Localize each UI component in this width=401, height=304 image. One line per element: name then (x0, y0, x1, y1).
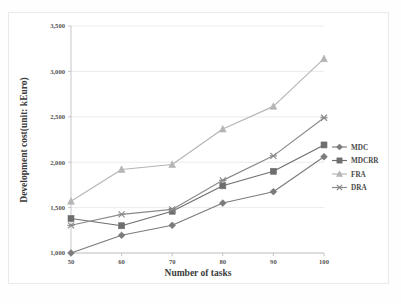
data-point-marker (118, 232, 125, 239)
data-point-marker (337, 158, 342, 163)
line-chart: 1,0001,5002,0002,5003,0003,500 506070809… (14, 14, 383, 279)
series-mdcrr (68, 142, 327, 229)
data-point-marker (270, 168, 276, 174)
legend-label: MDC (351, 144, 368, 152)
y-tick-label: 3,000 (50, 68, 66, 75)
data-point-marker (220, 183, 226, 189)
data-point-marker (68, 250, 75, 257)
data-point-marker (270, 188, 277, 195)
legend-item-mdc[interactable]: MDC (332, 144, 368, 152)
series-line (71, 59, 324, 202)
figure-container: 1,0001,5002,0002,5003,0003,500 506070809… (0, 0, 401, 304)
x-tick-label: 100 (319, 258, 330, 265)
y-tick-label: 1,000 (50, 249, 66, 256)
chart-legend: MDCMDCRRFRADRA (332, 144, 379, 193)
y-tick-label: 2,000 (50, 159, 66, 166)
data-point-marker (270, 153, 277, 159)
y-tick-label: 3,500 (50, 22, 66, 29)
legend-item-mdcrr[interactable]: MDCRR (332, 157, 379, 165)
legend-label: MDCRR (351, 157, 379, 165)
x-tick-label: 90 (270, 258, 277, 265)
chart-svg: 1,0001,5002,0002,5003,0003,500 506070809… (14, 14, 383, 279)
data-point-marker (118, 211, 125, 217)
data-point-marker (336, 185, 342, 190)
data-point-marker (320, 115, 327, 121)
y-axis-tick-labels: 1,0001,5002,0002,5003,0003,500 (50, 22, 66, 256)
legend-item-dra[interactable]: DRA (332, 184, 367, 192)
x-tick-label: 70 (169, 258, 176, 265)
data-point-marker (321, 153, 328, 160)
data-point-marker (337, 144, 343, 150)
data-point-marker (321, 142, 327, 148)
legend-item-fra[interactable]: FRA (332, 171, 367, 179)
data-point-marker (68, 198, 75, 205)
data-point-marker (169, 222, 176, 229)
data-series-group (67, 55, 327, 256)
y-tick-label: 2,500 (50, 113, 66, 120)
data-point-marker (119, 223, 125, 229)
gridlines-group (68, 26, 324, 253)
series-dra (67, 115, 327, 229)
data-point-marker (219, 200, 226, 207)
x-tick-label: 80 (220, 258, 227, 265)
y-axis-title: Development cost(unit: kEuro) (19, 77, 30, 202)
legend-label: DRA (351, 184, 367, 192)
x-axis-tick-labels: 5060708090100 (68, 253, 330, 265)
data-point-marker (219, 125, 226, 132)
data-point-marker (68, 215, 74, 221)
legend-label: FRA (351, 171, 367, 179)
series-line (71, 118, 324, 226)
x-axis-title: Number of tasks (165, 268, 232, 278)
data-point-marker (219, 177, 226, 183)
x-tick-label: 60 (118, 258, 125, 265)
x-tick-label: 50 (68, 258, 75, 265)
series-mdc (68, 153, 328, 256)
data-point-marker (321, 55, 328, 62)
series-line (71, 157, 324, 253)
y-tick-label: 1,500 (50, 204, 66, 211)
